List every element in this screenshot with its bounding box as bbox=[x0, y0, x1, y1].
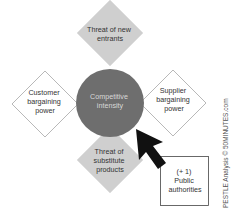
five-forces-diagram: Threat of new entrants Customer bargaini… bbox=[0, 0, 239, 219]
copyright-credit: PESTLE Analysis © 50MINUTES.com bbox=[222, 98, 229, 208]
arrow-icon bbox=[136, 129, 166, 169]
threat-substitutes-label: Threat of substitute products bbox=[94, 147, 127, 174]
